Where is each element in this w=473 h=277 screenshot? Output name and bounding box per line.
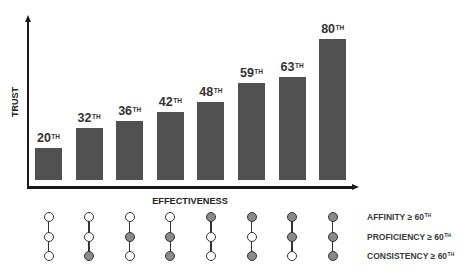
empty-circle-icon <box>84 232 94 242</box>
bar <box>279 77 306 180</box>
criteria-column <box>44 212 54 261</box>
bar-value-suffix: TH <box>51 133 60 140</box>
bar-value-suffix: TH <box>214 87 223 94</box>
criteria-label: PROFICIENCY ≥ 60TH <box>367 232 451 242</box>
criteria-label-suffix: TH <box>448 251 455 257</box>
empty-circle-icon <box>84 212 94 222</box>
bar-value-label: 63TH <box>270 61 314 73</box>
criteria-label: CONSISTENCY ≥ 60TH <box>367 251 454 261</box>
criteria-column <box>84 212 94 261</box>
criteria-label: AFFINITY ≥ 60TH <box>367 212 431 222</box>
empty-circle-icon <box>44 232 54 242</box>
empty-circle-icon <box>44 251 54 261</box>
bar <box>116 121 143 180</box>
bar <box>157 112 184 180</box>
bar-value: 63 <box>281 60 295 74</box>
empty-circle-icon <box>287 251 297 261</box>
filled-circle-icon <box>165 251 175 261</box>
x-axis-arrow-icon <box>352 184 359 190</box>
criteria-column <box>206 212 216 261</box>
bar-value-suffix: TH <box>336 24 345 31</box>
empty-circle-icon <box>206 232 216 242</box>
filled-circle-icon <box>247 251 257 261</box>
bar-value: 59 <box>240 66 254 80</box>
criteria-column <box>165 212 175 261</box>
filled-circle-icon <box>84 251 94 261</box>
bar-value-label: 32TH <box>67 112 111 124</box>
filled-circle-icon <box>125 232 135 242</box>
empty-circle-icon <box>165 212 175 222</box>
bar-value-label: 20TH <box>27 132 71 144</box>
criteria-column <box>328 212 338 261</box>
criteria-label-text: PROFICIENCY ≥ 60 <box>367 232 444 242</box>
bar-value: 48 <box>199 85 213 99</box>
bar-value-suffix: TH <box>92 113 101 120</box>
criteria-label-suffix: TH <box>444 232 451 238</box>
criteria-column <box>287 212 297 261</box>
bar-value-label: 42TH <box>148 96 192 108</box>
bar-value-suffix: TH <box>173 97 182 104</box>
bar <box>238 83 265 180</box>
bar <box>35 148 62 180</box>
bar <box>319 39 346 180</box>
bar-value: 36 <box>118 104 132 118</box>
empty-circle-icon <box>125 212 135 222</box>
empty-circle-icon <box>247 232 257 242</box>
filled-circle-icon <box>328 212 338 222</box>
y-axis-label: TRUST <box>10 87 20 117</box>
bar-value: 20 <box>37 131 51 145</box>
filled-circle-icon <box>328 232 338 242</box>
bar-value-suffix: TH <box>133 106 142 113</box>
empty-circle-icon <box>125 251 135 261</box>
y-axis <box>27 21 29 188</box>
bar-value-suffix: TH <box>295 62 304 69</box>
filled-circle-icon <box>328 251 338 261</box>
bar-value: 42 <box>159 95 173 109</box>
bar-value: 80 <box>321 22 335 36</box>
bar-value-label: 59TH <box>230 67 274 79</box>
empty-circle-icon <box>44 212 54 222</box>
filled-circle-icon <box>165 232 175 242</box>
criteria-label-suffix: TH <box>424 212 431 218</box>
x-axis-label: EFFECTIVENESS <box>152 196 228 206</box>
bar <box>76 128 103 180</box>
filled-circle-icon <box>287 212 297 222</box>
criteria-column <box>247 212 257 261</box>
filled-circle-icon <box>206 212 216 222</box>
bar-value-label: 36TH <box>108 105 152 117</box>
bar-value: 32 <box>78 111 92 125</box>
filled-circle-icon <box>287 232 297 242</box>
bar-value-suffix: TH <box>254 68 263 75</box>
x-axis <box>27 186 353 189</box>
criteria-label-text: AFFINITY ≥ 60 <box>367 212 424 222</box>
bar <box>197 102 224 180</box>
filled-circle-icon <box>247 212 257 222</box>
bar-value-label: 80TH <box>311 23 355 35</box>
criteria-label-text: CONSISTENCY ≥ 60 <box>367 251 447 261</box>
criteria-column <box>125 212 135 261</box>
empty-circle-icon <box>206 251 216 261</box>
bar-value-label: 48TH <box>189 86 233 98</box>
